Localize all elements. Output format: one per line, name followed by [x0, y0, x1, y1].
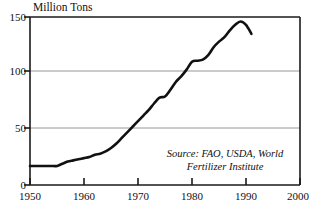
y-tick-label-100: 100	[0, 66, 26, 77]
y-tick-label-50: 50	[0, 123, 26, 134]
x-tick-label-1960: 1960	[64, 191, 104, 202]
x-tick-label-1950: 1950	[10, 191, 50, 202]
y-tick-label-150: 150	[0, 12, 26, 23]
data-series-line	[30, 21, 251, 166]
x-tick-label-1970: 1970	[118, 191, 158, 202]
source-annotation-line1: Source: FAO, USDA, World	[167, 148, 284, 159]
chart-plot-area	[0, 0, 316, 215]
source-annotation-line2: Fertilizer Institute	[150, 161, 300, 174]
source-annotation: Source: FAO, USDA, World Fertilizer Inst…	[150, 148, 300, 173]
x-axis-ticks	[30, 178, 300, 185]
x-tick-label-2000: 2000	[278, 191, 316, 202]
x-tick-label-1990: 1990	[226, 191, 266, 202]
gridlines	[30, 71, 300, 128]
fertilizer-use-chart: Million Tons 150 100 50	[0, 0, 316, 215]
y-axis-ticks	[24, 17, 30, 185]
x-tick-label-1980: 1980	[172, 191, 212, 202]
